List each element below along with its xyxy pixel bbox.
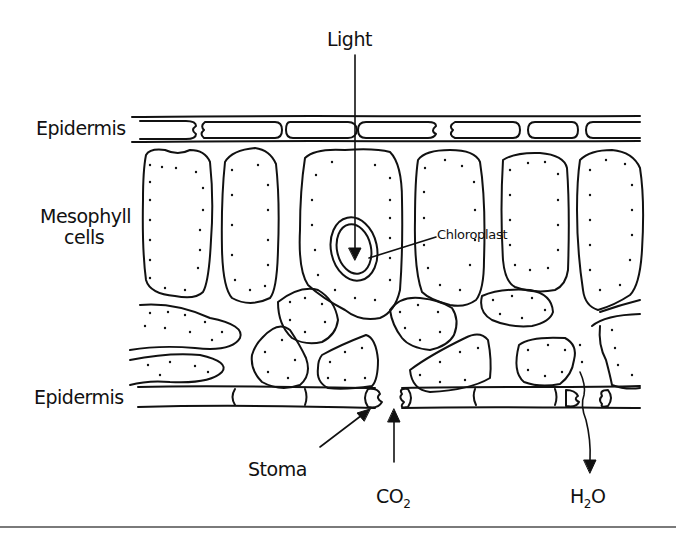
light-label: Light — [327, 30, 372, 49]
epidermis-top-label: Epidermis — [36, 119, 126, 138]
co2-label: CO2 — [376, 487, 410, 506]
chloroplast-label: Chloroplast — [437, 228, 507, 241]
co2-main-text: CO — [376, 485, 403, 507]
palisade-mesophyll-cells — [143, 148, 643, 319]
light-arrow — [349, 55, 361, 260]
mesophyll-label-line1: Mesophyll — [40, 207, 131, 226]
chloroplast-drawing — [325, 213, 436, 285]
stoma-label: Stoma — [248, 460, 307, 479]
mesophyll-label-line2: cells — [64, 228, 104, 247]
spongy-mesophyll-cells — [130, 289, 640, 392]
h2o-h-text: H — [570, 485, 584, 507]
bottom-divider — [0, 526, 676, 528]
diagram-drawing — [0, 0, 676, 542]
stoma-pointer-arrow — [320, 409, 370, 447]
leaf-cross-section-diagram: Light Epidermis Mesophyll cells Chloropl… — [0, 0, 676, 542]
epidermis-bottom-label: Epidermis — [34, 388, 124, 407]
h2o-o-text: O — [591, 485, 605, 507]
bottom-epidermis — [138, 386, 640, 408]
co2-arrow — [388, 409, 400, 462]
h2o-label: H2O — [570, 487, 605, 506]
top-epidermis — [132, 116, 640, 142]
h2o-subscript: 2 — [584, 497, 591, 511]
co2-subscript: 2 — [403, 497, 410, 511]
